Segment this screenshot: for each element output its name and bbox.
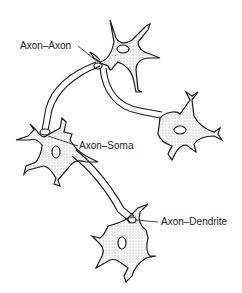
- label-axon-dendrite: Axon–Dendrite: [161, 216, 227, 228]
- neuron-bottom: [92, 204, 156, 282]
- neuron-top: [90, 20, 160, 92]
- label-axon-axon: Axon–Axon: [20, 40, 71, 52]
- label-axon-soma: Axon–Soma: [79, 140, 133, 152]
- neuron-right: [158, 92, 222, 160]
- synapse-diagram: Axon–Axon Axon–Soma Axon–Dendrite: [0, 0, 242, 293]
- neuron-left: [16, 118, 98, 186]
